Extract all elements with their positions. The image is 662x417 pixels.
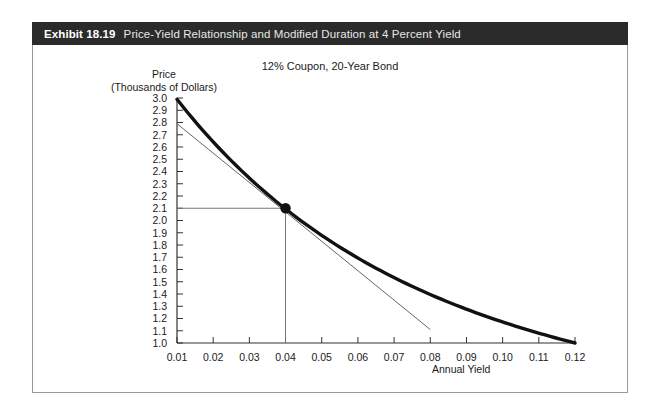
y-tick-label: 1.2 — [152, 312, 167, 324]
y-tick-label: 2.4 — [152, 165, 167, 177]
price-yield-curve — [177, 99, 575, 343]
x-axis-tick-marks — [177, 337, 575, 343]
y-tick-label: 1.6 — [152, 263, 167, 275]
exhibit-caption-bar: Exhibit 18.19 Price-Yield Relationship a… — [32, 22, 628, 45]
y-tick-label: 2.5 — [152, 153, 167, 165]
exhibit-figure: Exhibit 18.19 Price-Yield Relationship a… — [0, 0, 662, 417]
x-tick-label: 0.06 — [348, 351, 369, 363]
y-axis-tick-labels: 3.02.92.82.72.62.52.42.32.22.12.01.91.81… — [152, 92, 167, 349]
y-tick-label: 1.4 — [152, 288, 167, 300]
y-tick-label: 1.0 — [152, 337, 167, 349]
y-tick-label: 1.9 — [152, 227, 167, 239]
y-tick-label: 1.5 — [152, 276, 167, 288]
x-tick-label: 0.01 — [167, 351, 188, 363]
x-tick-label: 0.12 — [565, 351, 586, 363]
x-tick-label: 0.02 — [203, 351, 224, 363]
tangency-point-marker — [280, 203, 290, 213]
y-tick-label: 1.8 — [152, 239, 167, 251]
y-tick-label: 2.6 — [152, 141, 167, 153]
x-tick-label: 0.10 — [492, 351, 513, 363]
y-tick-label: 1.1 — [152, 325, 167, 337]
exhibit-caption-text: Price-Yield Relationship and Modified Du… — [124, 28, 461, 40]
y-tick-label: 2.9 — [152, 104, 167, 116]
y-tick-label: 2.8 — [152, 116, 167, 128]
x-tick-label: 0.05 — [312, 351, 333, 363]
x-tick-label: 0.11 — [529, 351, 549, 363]
y-tick-label: 2.3 — [152, 178, 167, 190]
x-axis-tick-labels: 0.010.020.030.040.050.060.070.080.090.10… — [167, 351, 586, 363]
chart-area: 12% Coupon, 20-Year Bond Price (Thousand… — [32, 45, 628, 393]
y-tick-label: 3.0 — [152, 92, 167, 104]
y-tick-label: 2.1 — [152, 202, 167, 214]
y-axis-tick-marks — [177, 98, 183, 343]
y-tick-label: 1.3 — [152, 300, 167, 312]
x-tick-label: 0.04 — [275, 351, 296, 363]
y-tick-label: 2.7 — [152, 129, 167, 141]
x-tick-label: 0.07 — [384, 351, 405, 363]
y-tick-label: 1.7 — [152, 251, 167, 263]
x-tick-label: 0.03 — [239, 351, 260, 363]
modified-duration-tangent-line — [177, 124, 430, 330]
x-tick-label: 0.08 — [420, 351, 441, 363]
exhibit-number: Exhibit 18.19 — [44, 28, 116, 40]
y-tick-label: 2.0 — [152, 214, 167, 226]
x-tick-label: 0.09 — [456, 351, 477, 363]
y-tick-label: 2.2 — [152, 190, 167, 202]
plot-canvas: 3.02.92.82.72.62.52.42.32.22.12.01.91.81… — [32, 45, 628, 393]
